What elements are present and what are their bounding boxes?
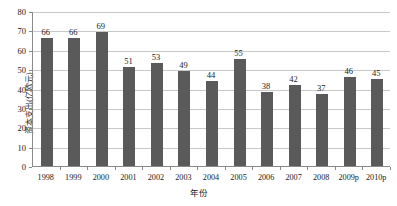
bar-value-label: 42	[281, 75, 307, 84]
y-axis-tick-label: 50	[6, 66, 26, 74]
bar-value-label: 44	[198, 71, 224, 80]
gridline	[33, 31, 390, 32]
x-axis-tick-mark	[280, 167, 281, 170]
bar	[234, 59, 246, 166]
gridline	[33, 12, 390, 13]
x-axis-title: 年份	[0, 186, 397, 198]
bar-value-label: 49	[170, 61, 196, 70]
bar-value-label: 66	[33, 28, 59, 37]
y-axis-tick-label: 30	[6, 105, 26, 113]
bar	[178, 71, 190, 166]
bar-value-label: 38	[253, 82, 279, 91]
bar	[344, 77, 356, 166]
x-axis-tick-mark	[170, 167, 171, 170]
x-axis-tick-mark	[115, 167, 116, 170]
x-axis-tick-mark	[142, 167, 143, 170]
bar-value-label: 55	[226, 49, 252, 58]
y-axis-tick-label: 0	[6, 163, 26, 171]
x-axis-tick-mark	[362, 167, 363, 170]
bar	[41, 38, 53, 166]
bar-chart: 资本支出(亿欧元) 01020304050607080 199819992000…	[0, 0, 397, 206]
y-axis-tick-label: 60	[6, 47, 26, 55]
x-axis-tick-mark	[335, 167, 336, 170]
x-axis-tick-mark	[225, 167, 226, 170]
bar	[68, 38, 80, 166]
bar-value-label: 37	[308, 84, 334, 93]
bar-value-label: 53	[143, 53, 169, 62]
y-axis-tick-label: 20	[6, 124, 26, 132]
x-axis-tick-mark	[197, 167, 198, 170]
bar-value-label: 45	[363, 69, 389, 78]
bar-value-label: 69	[88, 22, 114, 31]
bar-value-label: 66	[60, 28, 86, 37]
bar	[289, 85, 301, 166]
y-axis-tick-label: 10	[6, 144, 26, 152]
y-axis-tick-label: 70	[6, 27, 26, 35]
bar	[96, 32, 108, 166]
x-axis-tick-mark	[87, 167, 88, 170]
bar	[123, 67, 135, 166]
bar	[261, 92, 273, 166]
x-axis-tick-mark	[252, 167, 253, 170]
y-axis-tick-label: 80	[6, 8, 26, 16]
bar-value-label: 46	[336, 67, 362, 76]
x-axis-tick-mark	[390, 167, 391, 170]
bar	[206, 81, 218, 166]
bar	[316, 94, 328, 166]
x-axis-tick-mark	[60, 167, 61, 170]
y-axis-tick-mark	[29, 167, 32, 168]
gridline	[33, 51, 390, 52]
x-axis-tick-mark	[307, 167, 308, 170]
x-axis-tick-label: 2010p	[359, 173, 393, 182]
bar	[371, 79, 383, 166]
y-axis-tick-label: 40	[6, 86, 26, 94]
bar	[151, 63, 163, 166]
bar-value-label: 51	[115, 57, 141, 66]
